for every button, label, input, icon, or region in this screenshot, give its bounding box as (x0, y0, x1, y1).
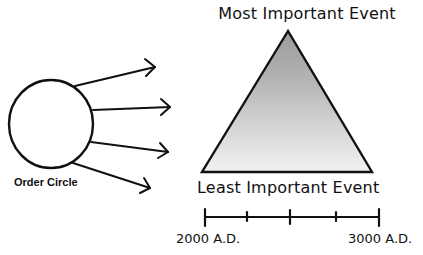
arrow-4-icon (73, 163, 150, 193)
least-important-event-label: Least Important Event (197, 178, 417, 197)
arrow-2-icon (93, 99, 170, 115)
order-circle (9, 80, 93, 168)
importance-pyramid (202, 31, 372, 172)
arrow-1-icon (75, 59, 155, 86)
arrow-3-icon (91, 142, 168, 158)
diagram-canvas (0, 0, 423, 255)
timeline-axis (205, 209, 379, 226)
timeline-end-label: 3000 A.D. (348, 231, 412, 246)
timeline-start-label: 2000 A.D. (176, 231, 240, 246)
most-important-event-label: Most Important Event (192, 4, 422, 23)
order-circle-label: Order Circle (14, 176, 78, 188)
